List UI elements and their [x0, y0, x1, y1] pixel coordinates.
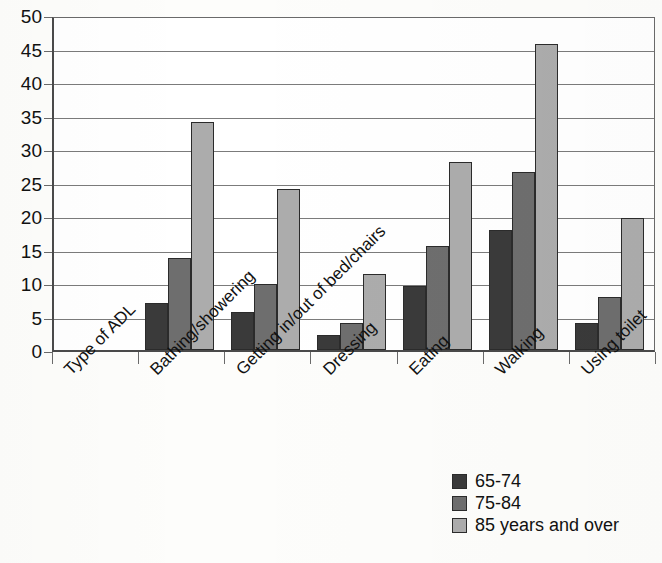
y-tick-label: 40	[0, 74, 42, 93]
legend-item: 85 years and over	[452, 514, 657, 536]
legend-item: 65-74	[452, 470, 657, 492]
y-tick-mark	[44, 285, 52, 286]
bar	[403, 286, 426, 350]
x-tick-mark	[310, 352, 311, 364]
y-tick-mark	[44, 352, 52, 353]
y-tick-mark	[44, 118, 52, 119]
x-tick-mark	[397, 352, 398, 364]
x-tick-mark	[655, 352, 656, 364]
y-tick-label: 25	[0, 175, 42, 194]
y-tick-mark	[44, 151, 52, 152]
x-tick-mark	[224, 352, 225, 364]
y-tick-mark	[44, 185, 52, 186]
x-tick-mark	[52, 352, 53, 364]
y-tick-label: 5	[0, 309, 42, 328]
bar-group	[54, 18, 140, 350]
legend-label: 85 years and over	[475, 516, 619, 534]
y-tick-label: 50	[0, 7, 42, 26]
legend-swatch-icon	[452, 474, 467, 489]
bar	[449, 162, 472, 350]
bar-group	[312, 18, 398, 350]
y-tick-mark	[44, 252, 52, 253]
y-tick-label: 20	[0, 208, 42, 227]
legend-label: 75-84	[475, 494, 521, 512]
bar-chart-figure: 05101520253035404550 Type of ADLBathing/…	[0, 0, 662, 563]
x-tick-mark	[483, 352, 484, 364]
legend-item: 75-84	[452, 492, 657, 514]
y-tick-mark	[44, 218, 52, 219]
y-tick-label: 35	[0, 108, 42, 127]
y-axis: 05101520253035404550	[0, 0, 52, 563]
legend-swatch-icon	[452, 496, 467, 511]
y-tick-mark	[44, 17, 52, 18]
y-tick-mark	[44, 319, 52, 320]
y-tick-mark	[44, 51, 52, 52]
x-tick-mark	[569, 352, 570, 364]
y-tick-label: 45	[0, 41, 42, 60]
bar-group	[571, 18, 657, 350]
bar	[489, 230, 512, 350]
x-tick-mark	[138, 352, 139, 364]
bar	[535, 44, 558, 350]
bar-group	[485, 18, 571, 350]
bar-group	[399, 18, 485, 350]
bar	[145, 303, 168, 350]
y-tick-mark	[44, 84, 52, 85]
y-tick-label: 30	[0, 141, 42, 160]
bar	[231, 312, 254, 350]
y-tick-label: 15	[0, 242, 42, 261]
legend-label: 65-74	[475, 472, 521, 490]
plot-area	[52, 17, 655, 352]
y-tick-label: 0	[0, 342, 42, 361]
chart-legend: 65-7475-8485 years and over	[452, 470, 657, 536]
y-tick-label: 10	[0, 275, 42, 294]
legend-swatch-icon	[452, 518, 467, 533]
